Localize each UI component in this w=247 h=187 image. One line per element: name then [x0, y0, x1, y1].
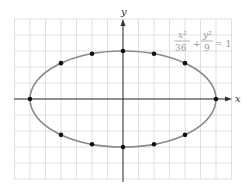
x-axis-arrow-icon	[225, 97, 232, 102]
data-point	[90, 142, 95, 147]
data-point	[183, 61, 188, 66]
y-axis-arrow-icon	[121, 19, 126, 26]
data-point	[90, 51, 95, 56]
x-axis-label: x	[235, 93, 241, 104]
ellipse-plot: x y x² 36 + y² 9 = 1	[0, 0, 247, 187]
eq-equals: = 1	[215, 39, 231, 49]
data-point	[121, 49, 126, 54]
eq-den1: 36	[175, 43, 187, 53]
data-point	[214, 97, 219, 102]
eq-den2: 9	[204, 43, 210, 53]
data-point	[28, 97, 33, 102]
data-point	[59, 133, 64, 138]
data-point	[59, 61, 64, 66]
y-axis-label: y	[120, 6, 127, 17]
eq-num1: x²	[178, 30, 187, 40]
data-point	[121, 145, 126, 150]
data-point	[152, 142, 157, 147]
data-point	[183, 133, 188, 138]
equation-label: x² 36 + y² 9 = 1	[174, 30, 231, 53]
eq-plus: +	[193, 39, 201, 49]
data-point	[152, 51, 157, 56]
eq-num2: y²	[202, 30, 212, 40]
